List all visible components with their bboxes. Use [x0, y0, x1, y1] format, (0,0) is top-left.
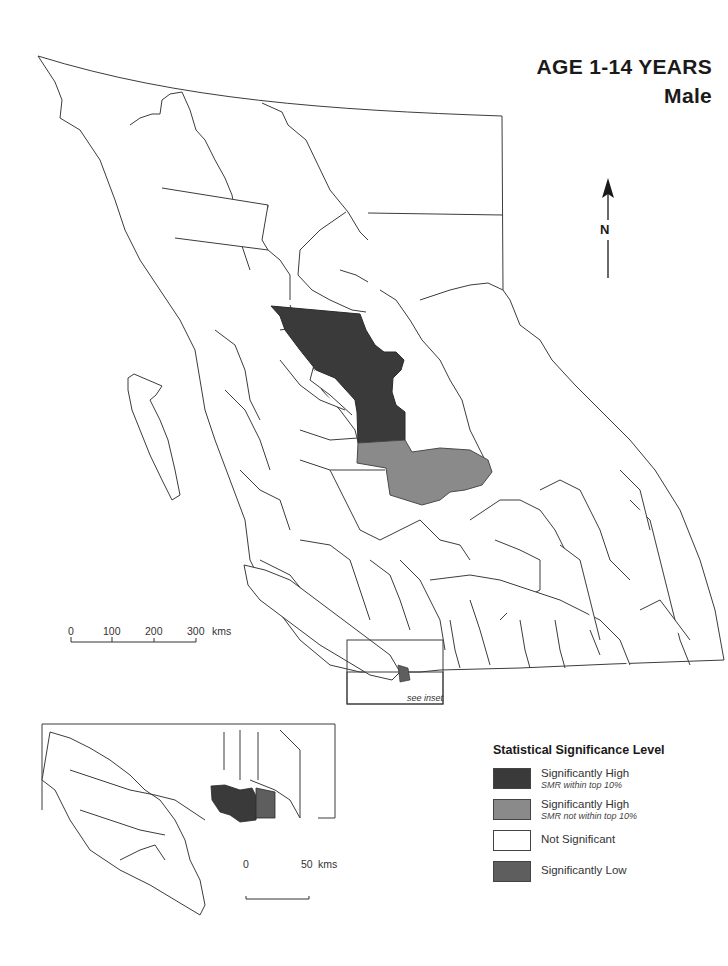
see-inset-label: see inset	[407, 693, 443, 703]
legend-swatch	[493, 861, 531, 882]
scale-tick-100: 100	[103, 625, 121, 637]
inset-scale-bar: 0 50 kms	[238, 858, 338, 888]
inset-region-sig-high-top10	[211, 785, 258, 822]
scale-tick-300: 300	[187, 625, 205, 637]
legend-label: Not Significant	[541, 833, 615, 846]
north-label: N	[600, 222, 609, 237]
legend-label: Significantly Low	[541, 864, 627, 877]
north-arrow: N	[598, 178, 618, 278]
legend-label: Significantly High	[541, 767, 629, 780]
legend-item-sig-high-not-top10: Significantly High SMR not within top 10…	[493, 798, 723, 829]
legend-title: Statistical Significance Level	[493, 743, 723, 757]
scale-tick-0: 0	[68, 625, 74, 637]
legend-sublabel: SMR not within top 10%	[541, 811, 637, 822]
haida-gwaii	[128, 374, 180, 500]
legend-label: Significantly High	[541, 798, 637, 811]
legend-item-sig-low: Significantly Low	[493, 860, 723, 891]
legend-swatch	[493, 799, 531, 820]
legend-item-sig-high-top10: Significantly High SMR within top 10%	[493, 767, 723, 798]
legend-sublabel: SMR within top 10%	[541, 780, 629, 791]
inset-scale-tick-0: 0	[243, 858, 249, 870]
legend-item-not-significant: Not Significant	[493, 829, 723, 860]
inset-scale-tick-50: 50	[301, 858, 313, 870]
legend: Statistical Significance Level Significa…	[493, 743, 723, 891]
scale-tick-200: 200	[145, 625, 163, 637]
legend-swatch	[493, 830, 531, 851]
inset-scale-unit: kms	[318, 858, 337, 870]
main-scale-bar: 0 100 200 300 kms	[60, 625, 300, 655]
scale-unit: kms	[212, 625, 231, 637]
legend-swatch	[493, 768, 531, 789]
inset-region-sig-low	[256, 788, 275, 818]
